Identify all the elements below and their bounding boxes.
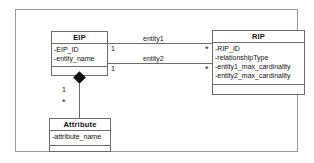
association-label-entity1: entity1: [143, 35, 164, 43]
attribute-line: -RIP_ID: [215, 44, 302, 53]
multiplicity-entity1-source: 1: [111, 45, 115, 52]
attribute-line: -entity1_max_cardinality: [215, 62, 302, 71]
multiplicity-composition-source: 1: [62, 86, 66, 93]
multiplicity-composition-target: *: [62, 99, 66, 105]
class-operations-attribute: [50, 146, 110, 151]
class-name-eip: EIP: [52, 32, 107, 44]
class-box-eip[interactable]: EIP -EIP_ID -entity_name: [51, 31, 108, 76]
association-line-entity1[interactable]: [108, 43, 212, 44]
class-operations-rip: [213, 85, 304, 94]
attribute-line: -relationshipType: [215, 53, 302, 62]
class-box-attribute[interactable]: Attribute -attribute_name: [49, 118, 111, 152]
attribute-line: -entity2_max_cardinality: [215, 71, 302, 80]
class-attributes-rip: -RIP_ID -relationshipType -entity1_max_c…: [213, 43, 304, 85]
class-box-rip[interactable]: RIP -RIP_ID -relationshipType -entity1_m…: [212, 30, 305, 95]
multiplicity-entity2-source: 1: [111, 65, 115, 72]
diagram-canvas: EIP -EIP_ID -entity_name RIP -RIP_ID -re…: [0, 0, 314, 163]
association-line-entity2[interactable]: [108, 63, 212, 64]
multiplicity-entity1-target: *: [205, 46, 209, 52]
class-name-attribute: Attribute: [50, 119, 110, 131]
attribute-line: -attribute_name: [52, 132, 108, 141]
attribute-line: -entity_name: [54, 54, 105, 63]
attribute-line: -EIP_ID: [54, 45, 105, 54]
diagram-frame: EIP -EIP_ID -entity_name RIP -RIP_ID -re…: [15, 9, 298, 152]
class-attributes-eip: -EIP_ID -entity_name: [52, 44, 107, 67]
association-label-entity2: entity2: [143, 55, 164, 63]
class-attributes-attribute: -attribute_name: [50, 131, 110, 146]
class-name-rip: RIP: [213, 31, 304, 43]
multiplicity-entity2-target: *: [205, 66, 209, 72]
